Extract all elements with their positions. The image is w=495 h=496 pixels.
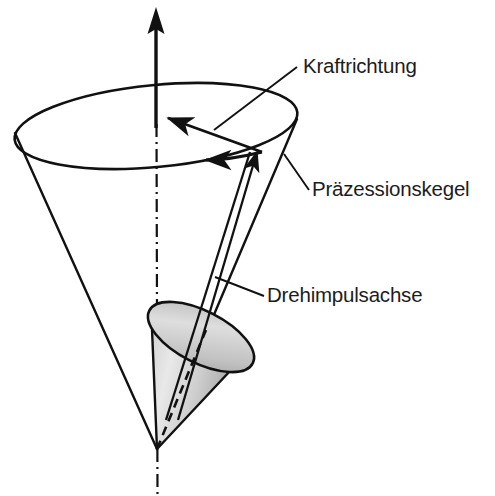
kraftrichtung-axis-arrow xyxy=(148,7,165,128)
label-praezessionskegel: Präzessionskegel xyxy=(312,177,469,200)
leader-line-praezessionskegel xyxy=(284,154,309,190)
figure-labels: Kraftrichtung Präzessionskegel Drehimpul… xyxy=(267,54,469,306)
precession-arrow-upper xyxy=(168,118,262,152)
leader-lines xyxy=(214,67,309,296)
label-kraftrichtung: Kraftrichtung xyxy=(303,54,417,77)
precession-cone-left-slant xyxy=(15,133,157,449)
figure-canvas: Kraftrichtung Präzessionskegel Drehimpul… xyxy=(0,0,495,496)
label-drehimpulsachse: Drehimpulsachse xyxy=(267,283,422,306)
precession-cone-diagram: Kraftrichtung Präzessionskegel Drehimpul… xyxy=(0,0,495,496)
precession-direction-arrows xyxy=(168,118,262,160)
